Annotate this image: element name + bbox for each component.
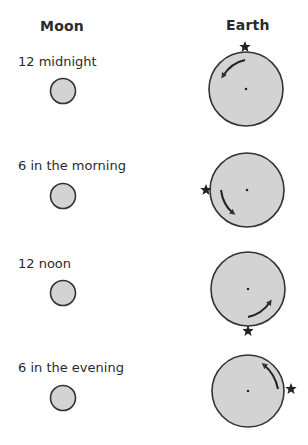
moon-noon — [51, 281, 76, 306]
earth-noon — [211, 252, 285, 336]
moon-earth-diagram — [0, 0, 308, 445]
star-icon — [285, 383, 296, 394]
moon-evening — [51, 386, 76, 411]
earth-evening — [212, 355, 297, 427]
moon-morning — [51, 184, 76, 209]
earth-morning — [200, 153, 284, 227]
star-icon — [242, 325, 253, 336]
earth-midnight — [209, 41, 283, 126]
moon-midnight — [51, 79, 76, 104]
star-icon — [239, 41, 250, 52]
